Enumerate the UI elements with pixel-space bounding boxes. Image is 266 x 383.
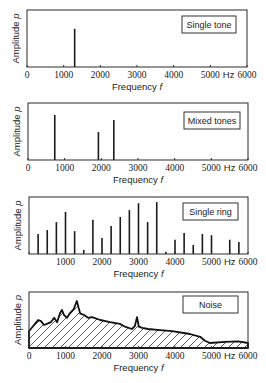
x-unit-label: Hz <box>224 162 236 173</box>
x-tick-label: 4000 <box>165 163 184 173</box>
x-axis-label: Frequency f <box>112 81 164 92</box>
x-tick-label: 4000 <box>166 351 185 361</box>
x-tick-label: 0 <box>26 163 31 173</box>
x-tick-label: 5000 <box>202 163 221 173</box>
x-tick-label: 5000 <box>201 70 220 80</box>
x-axis-label: Frequency f <box>113 268 165 279</box>
x-unit-label: Hz <box>223 69 235 80</box>
x-tick-label: 2000 <box>93 351 112 361</box>
y-axis-label: Amplitude p <box>10 13 21 63</box>
x-tick-label: 3000 <box>129 351 148 361</box>
x-tick-label: 4000 <box>166 257 185 267</box>
panel-title: Single ring <box>189 207 232 217</box>
chart-panel-1: 0100020003000400050006000HzFrequency fAm… <box>10 10 257 92</box>
y-axis-label: Amplitude p <box>12 295 23 345</box>
x-tick-label: 6000 <box>239 351 258 361</box>
panel-title: Single tone <box>186 20 231 30</box>
x-tick-label: 0 <box>27 351 32 361</box>
x-tick-label: 3000 <box>129 163 148 173</box>
x-tick-label: 0 <box>25 70 30 80</box>
chart-panel-4: 0100020003000400050006000HzFrequency fAm… <box>12 292 258 373</box>
x-tick-label: 2000 <box>93 257 112 267</box>
x-axis-label: Frequency f <box>113 362 165 373</box>
x-tick-label: 2000 <box>91 70 110 80</box>
x-tick-label: 3000 <box>128 70 147 80</box>
x-tick-label: 6000 <box>239 163 258 173</box>
x-tick-label: 1000 <box>56 257 75 267</box>
x-tick-label: 5000 <box>202 351 221 361</box>
x-unit-label: Hz <box>224 350 236 361</box>
x-tick-label: 6000 <box>239 257 258 267</box>
x-tick-label: 1000 <box>55 163 74 173</box>
panel-title: Mixed tones <box>188 116 237 126</box>
x-tick-label: 1000 <box>56 351 75 361</box>
x-tick-label: 2000 <box>92 163 111 173</box>
spectrum-figure: 0100020003000400050006000HzFrequency fAm… <box>0 0 266 383</box>
x-tick-label: 1000 <box>54 70 73 80</box>
y-axis-label: Amplitude p <box>12 200 23 250</box>
x-tick-label: 6000 <box>238 70 257 80</box>
y-axis-label: Amplitude p <box>11 106 22 156</box>
x-tick-label: 5000 <box>202 257 221 267</box>
x-tick-label: 3000 <box>129 257 148 267</box>
x-tick-label: 4000 <box>164 70 183 80</box>
chart-panel-3: 100020003000400050006000HzFrequency fAmp… <box>12 197 258 279</box>
chart-panel-2: 0100020003000400050006000HzFrequency fAm… <box>11 103 258 185</box>
panel-title: Noise <box>199 300 222 310</box>
x-unit-label: Hz <box>224 256 236 267</box>
x-axis-label: Frequency f <box>113 174 165 185</box>
